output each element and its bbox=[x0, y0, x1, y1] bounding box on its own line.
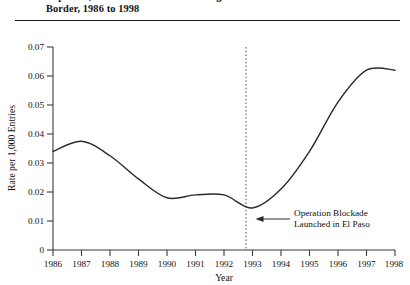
y-tick-label: 0 bbox=[39, 245, 44, 255]
y-tick-label: 0.04 bbox=[28, 129, 44, 139]
x-tick-label: 1986 bbox=[44, 259, 63, 269]
x-tick-label: 1998 bbox=[385, 259, 404, 269]
x-tick-label: 1993 bbox=[243, 259, 262, 269]
x-axis-tick-labels: 1986 1987 1988 1989 1990 1991 1992 1993 … bbox=[44, 259, 404, 269]
operation-blockade-annotation: Operation Blockade Launched in El Paso bbox=[256, 208, 371, 229]
x-axis-ticks bbox=[53, 250, 395, 256]
x-tick-label: 1992 bbox=[215, 259, 234, 269]
annotation-line-2: Launched in El Paso bbox=[294, 219, 370, 229]
y-tick-label: 0.05 bbox=[28, 100, 44, 110]
y-tick-label: 0.03 bbox=[28, 158, 44, 168]
x-tick-label: 1995 bbox=[300, 259, 319, 269]
x-tick-label: 1988 bbox=[101, 259, 120, 269]
x-tick-label: 1987 bbox=[72, 259, 91, 269]
y-axis-title: Rate per 1,000 Entries bbox=[6, 105, 17, 191]
y-axis-tick-labels: 0 0.01 0.02 0.03 0.04 0.05 0.06 0.07 bbox=[28, 42, 44, 255]
y-tick-label: 0.06 bbox=[28, 71, 44, 81]
chart-svg: 0 0.01 0.02 0.03 0.04 0.05 0.06 0.07 Rat… bbox=[0, 0, 410, 285]
x-tick-label: 1997 bbox=[357, 259, 376, 269]
y-tick-label: 0.07 bbox=[28, 42, 44, 52]
y-tick-label: 0.01 bbox=[28, 216, 44, 226]
x-tick-label: 1990 bbox=[158, 259, 177, 269]
figure: Exposure, and Unknown Causes Along the M… bbox=[0, 0, 410, 285]
x-tick-label: 1994 bbox=[272, 259, 291, 269]
data-series-line bbox=[53, 68, 395, 208]
line-chart-plot: 0 0.01 0.02 0.03 0.04 0.05 0.06 0.07 Rat… bbox=[0, 0, 410, 285]
x-axis-title: Year bbox=[215, 272, 233, 283]
annotation-line-1: Operation Blockade bbox=[294, 208, 368, 218]
x-tick-label: 1996 bbox=[329, 259, 348, 269]
x-tick-label: 1989 bbox=[129, 259, 148, 269]
y-tick-label: 0.02 bbox=[28, 187, 44, 197]
y-axis-ticks bbox=[47, 47, 53, 250]
x-tick-label: 1991 bbox=[186, 259, 205, 269]
